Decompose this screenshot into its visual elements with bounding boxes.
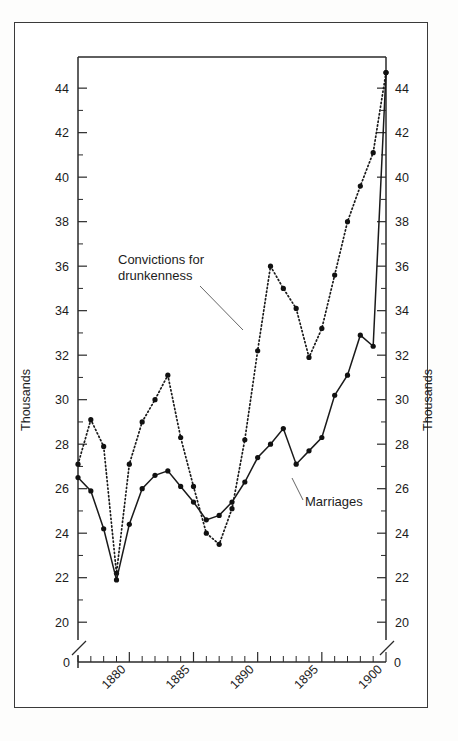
y-tick-label-right-28: 28	[395, 438, 409, 452]
data-point	[281, 426, 286, 431]
y-tick-label-right-22: 22	[395, 571, 409, 585]
data-point	[345, 219, 350, 224]
x-axis-ticks: 18801885189018951900	[78, 652, 386, 692]
x-tick-label-1900: 1900	[356, 662, 386, 692]
data-point	[101, 444, 106, 449]
annotation-convictions-line1: Convictions for	[118, 252, 205, 267]
x-tick-label-1890: 1890	[227, 662, 257, 692]
data-point	[178, 435, 183, 440]
y-tick-label-right-38: 38	[395, 215, 409, 229]
y-tick-label-left-42: 42	[55, 126, 69, 140]
y-axis-left-title: Thousands	[19, 369, 33, 431]
data-point	[114, 577, 119, 582]
data-point	[178, 484, 183, 489]
data-point	[204, 531, 209, 536]
y-tick-label-right-44: 44	[395, 82, 409, 96]
data-point	[75, 475, 80, 480]
data-point	[165, 468, 170, 473]
data-point	[229, 499, 234, 504]
data-point	[191, 484, 196, 489]
data-point	[88, 488, 93, 493]
data-point	[306, 355, 311, 360]
data-point	[88, 417, 93, 422]
data-point	[127, 462, 132, 467]
y-tick-label-left-30: 30	[55, 393, 69, 407]
data-point	[152, 473, 157, 478]
y-tick-label-left-44: 44	[55, 82, 69, 96]
data-point	[229, 506, 234, 511]
data-point	[268, 442, 273, 447]
annotation-marriages-label: Marriages	[305, 494, 363, 509]
chart-plot-region: 20222426283032343638404244 2022242628303…	[0, 0, 458, 741]
y-tick-label-right-20: 20	[395, 616, 409, 630]
x-tick-label-1885: 1885	[163, 662, 193, 692]
data-point	[345, 373, 350, 378]
axis-break-marks	[72, 641, 394, 655]
data-point	[319, 435, 324, 440]
data-point	[75, 462, 80, 467]
data-point	[358, 333, 363, 338]
y-tick-label-right-40: 40	[395, 171, 409, 185]
data-point	[371, 150, 376, 155]
y-axis-left-ticks: 20222426283032343638404244	[55, 82, 87, 630]
data-point	[165, 373, 170, 378]
y-axis-right-title: Thousands	[421, 369, 435, 431]
annotation-marriages: Marriages	[292, 478, 363, 509]
y-tick-label-right-34: 34	[395, 304, 409, 318]
data-point	[306, 448, 311, 453]
y-tick-label-left-24: 24	[55, 527, 69, 541]
y-axis-left-zero-label: 0	[63, 656, 70, 670]
data-point	[101, 526, 106, 531]
y-tick-label-left-32: 32	[55, 349, 69, 363]
data-point	[140, 486, 145, 491]
data-point	[242, 479, 247, 484]
data-point	[191, 499, 196, 504]
data-point	[127, 522, 132, 527]
data-point	[204, 517, 209, 522]
y-tick-label-left-28: 28	[55, 438, 69, 452]
data-point	[383, 70, 388, 75]
y-axis-right-zero-label: 0	[394, 656, 401, 670]
data-point	[332, 393, 337, 398]
y-tick-label-left-36: 36	[55, 260, 69, 274]
y-tick-label-right-26: 26	[395, 482, 409, 496]
x-tick-label-1880: 1880	[99, 662, 129, 692]
data-point	[268, 264, 273, 269]
y-tick-label-right-42: 42	[395, 126, 409, 140]
data-point	[294, 306, 299, 311]
data-point	[152, 397, 157, 402]
data-point	[255, 455, 260, 460]
data-point	[255, 348, 260, 353]
y-tick-label-left-38: 38	[55, 215, 69, 229]
data-point	[281, 286, 286, 291]
y-tick-label-left-20: 20	[55, 616, 69, 630]
data-point	[358, 183, 363, 188]
line-chart-svg: 20222426283032343638404244 2022242628303…	[0, 0, 458, 741]
y-tick-label-right-24: 24	[395, 527, 409, 541]
data-point	[371, 344, 376, 349]
data-point	[140, 419, 145, 424]
data-point	[294, 462, 299, 467]
y-tick-label-left-22: 22	[55, 571, 69, 585]
y-tick-label-left-26: 26	[55, 482, 69, 496]
annotation-convictions-line2: drunkenness	[118, 268, 193, 283]
y-tick-label-left-34: 34	[55, 304, 69, 318]
y-tick-label-right-32: 32	[395, 349, 409, 363]
y-tick-label-left-40: 40	[55, 171, 69, 185]
page-canvas: 20222426283032343638404244 2022242628303…	[0, 0, 458, 741]
x-tick-label-1895: 1895	[291, 662, 321, 692]
y-tick-label-right-36: 36	[395, 260, 409, 274]
data-point	[217, 542, 222, 547]
data-point	[319, 326, 324, 331]
annotation-convictions: Convictions for drunkenness	[118, 252, 243, 330]
y-tick-label-right-30: 30	[395, 393, 409, 407]
data-point	[332, 272, 337, 277]
plot-frame	[78, 57, 386, 668]
data-point	[217, 513, 222, 518]
data-point	[242, 437, 247, 442]
